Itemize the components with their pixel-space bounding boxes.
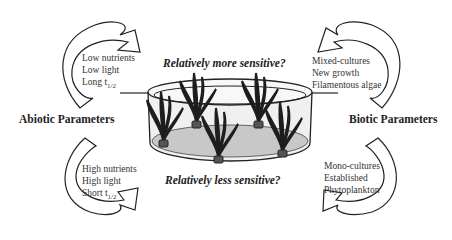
biotic-parameters-label: Biotic Parameters <box>349 113 437 125</box>
half-life-subscript: 1/2 <box>107 82 116 90</box>
plant-pot <box>278 150 287 157</box>
list-item: Established <box>324 172 380 184</box>
abiotic-parameters-label: Abiotic Parameters <box>19 113 114 125</box>
list-item: Mixed-cultures <box>312 55 381 67</box>
plant-pot <box>192 121 201 128</box>
list-item: High light <box>82 175 137 187</box>
plant-pot <box>214 156 223 163</box>
list-item: Long t1/2 <box>82 76 135 92</box>
abiotic-lower-list: High nutrients High light Short t1/2 <box>82 163 137 203</box>
top-question: Relatively more sensitive? <box>163 57 286 69</box>
list-item: Phytoplankton <box>324 184 380 196</box>
abiotic-upper-list: Low nutrients Low light Long t1/2 <box>82 52 135 92</box>
list-item: Mono-cultures <box>324 160 380 172</box>
list-item: High nutrients <box>82 163 137 175</box>
list-item: New growth <box>312 67 381 79</box>
list-item: Low nutrients <box>82 52 135 64</box>
list-item: Low light <box>82 64 135 76</box>
plant-pot <box>254 121 263 128</box>
plant-pot <box>159 140 168 147</box>
half-life-subscript: 1/2 <box>108 193 117 201</box>
biotic-lower-list: Mono-cultures Established Phytoplankton <box>324 160 380 196</box>
list-item: Filamentous algae <box>312 79 381 91</box>
list-item: Short t1/2 <box>82 187 137 203</box>
biotic-upper-list: Mixed-cultures New growth Filamentous al… <box>312 55 381 91</box>
bottom-question: Relatively less sensitive? <box>165 174 281 186</box>
